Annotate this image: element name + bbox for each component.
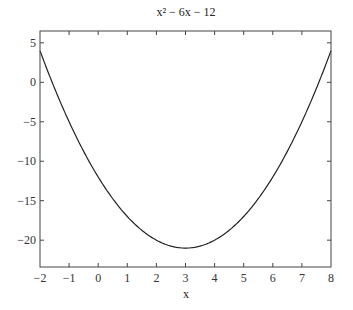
series-line [40, 51, 331, 248]
x-tick-label: 2 [153, 271, 159, 285]
plot-area [40, 51, 331, 248]
chart: x² − 6x − 12 −2−1012345678 50−5−10−15−20… [0, 0, 353, 310]
y-tick-label: −15 [17, 194, 36, 208]
x-tick-label: 6 [270, 271, 276, 285]
y-tick-label: −10 [17, 154, 36, 168]
x-tick-label: 1 [124, 271, 130, 285]
x-tick-label: 7 [299, 271, 305, 285]
x-tick-label: 3 [183, 271, 189, 285]
chart-title: x² − 6x − 12 [156, 5, 215, 19]
y-tick-label: −20 [17, 233, 36, 247]
x-tick-label: −2 [34, 271, 47, 285]
x-tick-label: 5 [241, 271, 247, 285]
y-tick-label: −5 [23, 115, 36, 129]
x-tick-label: 0 [95, 271, 101, 285]
x-tick-label: −1 [63, 271, 76, 285]
y-tick-label: 5 [30, 36, 36, 50]
x-axis: −2−1012345678 [34, 31, 334, 285]
x-tick-label: 8 [328, 271, 334, 285]
x-tick-label: 4 [212, 271, 218, 285]
x-axis-label: x [183, 287, 189, 301]
axes-frame [40, 31, 331, 267]
y-axis: 50−5−10−15−20 [17, 36, 331, 247]
y-tick-label: 0 [30, 75, 36, 89]
